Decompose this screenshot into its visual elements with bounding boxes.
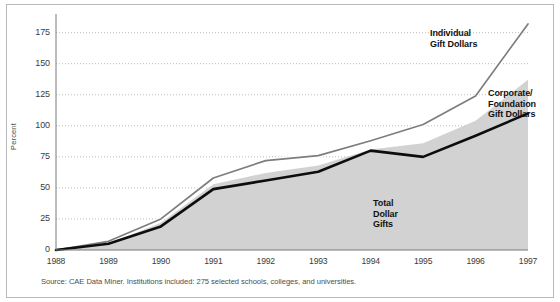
series-group (56, 24, 528, 250)
x-tick-label: 1992 (243, 256, 289, 266)
y-axis-title: Percent (9, 102, 18, 172)
x-tick-label: 1990 (138, 256, 184, 266)
x-tick-label: 1997 (505, 256, 551, 266)
y-tick-label: 50 (20, 182, 50, 192)
x-tick-label: 1993 (295, 256, 341, 266)
y-tick-label: 125 (20, 89, 50, 99)
x-tick-label: 1994 (348, 256, 394, 266)
x-tick-label: 1996 (453, 256, 499, 266)
x-tick-label: 1995 (400, 256, 446, 266)
annotation-corporate-line2: Foundation (488, 99, 536, 110)
annotation-total-line3: Gifts (373, 219, 398, 230)
annotation-individual-line1: Individual (430, 28, 477, 39)
annotation-corporate-line1: Corporate/ (488, 88, 536, 99)
y-tick-label: 25 (20, 213, 50, 223)
y-tick-label: 175 (20, 27, 50, 37)
annotation-total-dollar-gifts: Total Dollar Gifts (373, 198, 398, 230)
y-tick-label: 150 (20, 58, 50, 68)
source-note: Source: CAE Data Miner. Institutions inc… (41, 277, 356, 286)
y-tick-label: 100 (20, 120, 50, 130)
annotation-individual-gift-dollars: Individual Gift Dollars (430, 28, 477, 49)
annotation-individual-line2: Gift Dollars (430, 39, 477, 50)
chart-figure: Percent 0255075100125150175 198819891990… (0, 0, 560, 302)
annotation-total-line1: Total (373, 198, 398, 209)
y-tick-label: 75 (20, 151, 50, 161)
annotation-corporate-foundation-gift-dollars: Corporate/ Foundation Gift Dollars (488, 88, 536, 120)
annotation-corporate-line3: Gift Dollars (488, 109, 536, 120)
x-tick-label: 1988 (33, 256, 79, 266)
x-tick-label: 1989 (85, 256, 131, 266)
annotation-total-line2: Dollar (373, 209, 398, 220)
x-tick-label: 1991 (190, 256, 236, 266)
y-tick-label: 0 (20, 244, 50, 254)
